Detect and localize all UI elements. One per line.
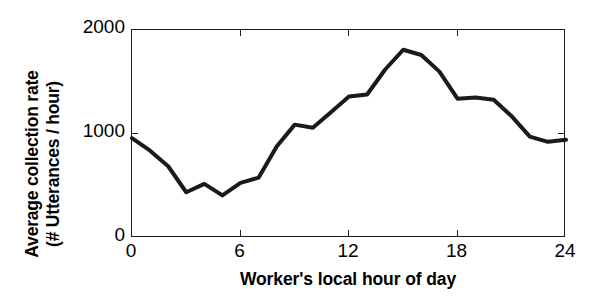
x-axis-tick xyxy=(240,230,241,237)
x-axis-tick xyxy=(457,230,458,237)
y-axis-tick xyxy=(131,133,138,134)
x-axis-tick xyxy=(348,230,349,237)
x-axis-tick-top xyxy=(240,29,241,36)
y-axis-title: Average collection rate (# Utterances / … xyxy=(13,49,73,279)
x-axis-tick-top xyxy=(457,29,458,36)
x-axis-tick-top xyxy=(348,29,349,36)
plot-area xyxy=(131,29,565,237)
data-series-line xyxy=(132,30,566,238)
chart-figure: Average collection rate (# Utterances / … xyxy=(0,0,602,305)
x-axis-title: Worker's local hour of day xyxy=(131,269,565,290)
y-axis-tick-right xyxy=(558,133,565,134)
y-axis-title-line-1: Average collection rate xyxy=(22,70,43,257)
y-axis-title-line-2: (# Utterances / hour) xyxy=(43,81,64,247)
